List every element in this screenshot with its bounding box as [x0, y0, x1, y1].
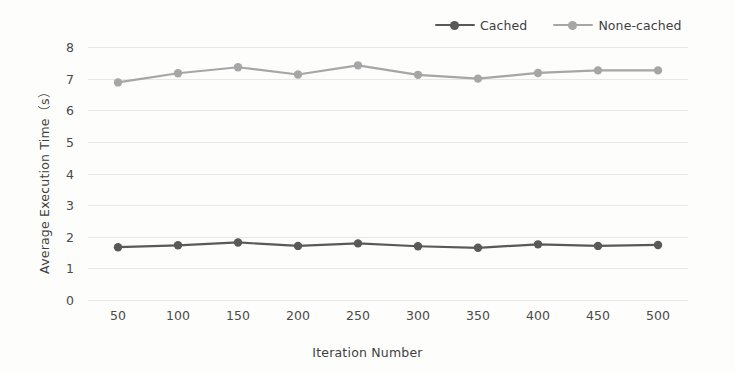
legend-swatch-none-cached-icon	[553, 19, 593, 31]
y-tick-label: 4	[66, 166, 74, 181]
data-point[interactable]	[354, 239, 362, 247]
data-point[interactable]	[474, 74, 482, 82]
y-tick-label: 6	[66, 103, 74, 118]
data-point[interactable]	[654, 241, 662, 249]
x-tick-label: 50	[110, 308, 126, 323]
x-tick-label: 300	[406, 308, 430, 323]
legend-item-none-cached[interactable]: None-cached	[553, 18, 681, 33]
y-tick-label: 2	[66, 229, 74, 244]
data-point[interactable]	[534, 240, 542, 248]
x-tick-label: 500	[646, 308, 670, 323]
y-tick-label: 3	[66, 198, 74, 213]
data-point[interactable]	[594, 66, 602, 74]
data-point[interactable]	[354, 61, 362, 69]
gridline	[88, 300, 688, 301]
data-point[interactable]	[114, 78, 122, 86]
x-tick-label: 100	[166, 308, 190, 323]
x-tick-label: 150	[226, 308, 250, 323]
y-tick-label: 7	[66, 71, 74, 86]
data-point[interactable]	[294, 70, 302, 78]
x-tick-label: 400	[526, 308, 550, 323]
chart-legend: Cached None-cached	[435, 14, 715, 36]
series-line-none-cached	[118, 65, 658, 82]
data-point[interactable]	[234, 63, 242, 71]
data-point[interactable]	[174, 241, 182, 249]
data-point[interactable]	[114, 243, 122, 251]
y-tick-label: 0	[66, 293, 74, 308]
data-point[interactable]	[474, 244, 482, 252]
y-tick-label: 8	[66, 40, 74, 55]
data-point[interactable]	[414, 242, 422, 250]
y-tick-label: 5	[66, 134, 74, 149]
x-tick-label: 450	[586, 308, 610, 323]
data-point[interactable]	[654, 66, 662, 74]
data-point[interactable]	[294, 242, 302, 250]
data-point[interactable]	[534, 69, 542, 77]
legend-label-cached: Cached	[480, 18, 527, 33]
y-axis-title: Average Execution Time（s）	[34, 55, 53, 305]
x-axis-title: Iteration Number	[0, 345, 735, 360]
x-tick-label: 200	[286, 308, 310, 323]
series-layer	[88, 47, 688, 300]
x-tick-label: 350	[466, 308, 490, 323]
legend-swatch-cached-icon	[435, 19, 475, 31]
data-point[interactable]	[174, 69, 182, 77]
data-point[interactable]	[234, 238, 242, 246]
chart-figure: Cached None-cached Average Execution Tim…	[0, 0, 735, 373]
legend-label-none-cached: None-cached	[598, 18, 681, 33]
y-tick-label: 1	[66, 261, 74, 276]
x-tick-label: 250	[346, 308, 370, 323]
series-line-cached	[118, 242, 658, 247]
x-axis-ticks: 50100150200250300350400450500	[88, 308, 688, 328]
legend-item-cached[interactable]: Cached	[435, 18, 527, 33]
plot-area: 012345678	[88, 47, 688, 300]
data-point[interactable]	[594, 242, 602, 250]
data-point[interactable]	[414, 71, 422, 79]
